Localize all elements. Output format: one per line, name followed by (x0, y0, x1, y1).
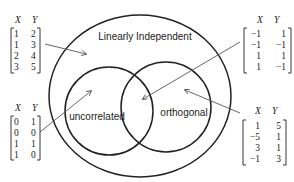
matrix-bottom-right: X Y 1 5 −5 1 3 1 −1 3 (243, 106, 286, 165)
svg-text:X: X (256, 15, 264, 25)
svg-text:3: 3 (14, 62, 19, 72)
svg-text:5: 5 (276, 121, 281, 131)
svg-text:−1: −1 (276, 62, 286, 72)
svg-text:1: 1 (14, 150, 19, 160)
matrix-top-left: X Y 1 2 1 3 2 4 3 5 (11, 15, 40, 73)
svg-text:3: 3 (255, 143, 260, 153)
svg-text:0: 0 (31, 128, 36, 138)
svg-text:2: 2 (14, 51, 19, 61)
svg-text:1: 1 (276, 132, 281, 142)
label-orthogonal: orthogonal (160, 107, 207, 118)
svg-text:X: X (14, 15, 22, 25)
svg-text:−1: −1 (251, 29, 261, 39)
svg-text:3: 3 (31, 40, 36, 50)
matrix-bottom-left: X Y 0 1 0 0 1 1 1 0 (11, 103, 40, 160)
svg-text:X: X (254, 106, 262, 116)
svg-text:0: 0 (14, 117, 19, 127)
svg-text:0: 0 (31, 150, 36, 160)
venn-diagram: Linearly Independent uncorrelated orthog… (0, 0, 294, 182)
svg-text:1: 1 (256, 51, 261, 61)
svg-text:X: X (14, 103, 22, 113)
svg-text:4: 4 (31, 51, 36, 61)
svg-text:1: 1 (31, 117, 36, 127)
svg-text:1: 1 (31, 139, 36, 149)
svg-text:Y: Y (272, 106, 279, 116)
svg-text:1: 1 (281, 29, 286, 39)
svg-text:2: 2 (31, 29, 36, 39)
svg-text:−1: −1 (276, 40, 286, 50)
svg-text:Y: Y (32, 103, 39, 113)
svg-text:Y: Y (274, 15, 281, 25)
label-linearly-independent: Linearly Independent (98, 31, 192, 42)
svg-text:−1: −1 (251, 40, 261, 50)
svg-text:1: 1 (14, 29, 19, 39)
svg-text:−5: −5 (250, 132, 260, 142)
svg-text:−1: −1 (250, 154, 260, 164)
svg-text:5: 5 (31, 62, 36, 72)
arrow-top-left (45, 44, 86, 54)
svg-text:1: 1 (256, 62, 261, 72)
matrix-top-right: X Y −1 1 −1 −1 1 1 1 −1 (244, 15, 291, 73)
svg-text:0: 0 (14, 128, 19, 138)
svg-text:1: 1 (14, 40, 19, 50)
label-uncorrelated: uncorrelated (69, 111, 125, 122)
svg-text:Y: Y (32, 15, 39, 25)
svg-text:1: 1 (255, 121, 260, 131)
arrow-top-right (143, 42, 240, 99)
svg-text:1: 1 (14, 139, 19, 149)
svg-text:3: 3 (276, 154, 281, 164)
svg-text:1: 1 (276, 143, 281, 153)
svg-text:1: 1 (281, 51, 286, 61)
